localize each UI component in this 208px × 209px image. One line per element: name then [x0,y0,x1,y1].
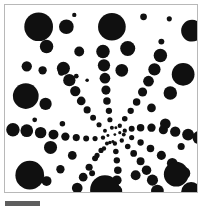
dot-marker [167,16,172,21]
scale-bar [5,201,40,206]
dot-marker [130,150,137,157]
dot-marker [115,64,128,77]
dot-marker [148,63,160,75]
dot-marker [140,14,147,21]
dot-marker [103,129,107,133]
dot-marker [98,13,126,41]
dot-marker [157,151,166,160]
dot-marker [147,104,156,113]
dot-marker [84,106,91,113]
dot-marker [113,133,116,136]
dot-marker [79,173,88,182]
dot-marker [129,135,134,140]
micrograph-panel[interactable] [4,4,198,193]
dot-marker [39,98,51,110]
dot-marker [107,117,112,122]
dot-marker [74,47,84,57]
dot-marker [101,86,110,95]
dot-marker [102,146,106,150]
dot-marker [122,133,126,137]
dot-marker [94,153,99,158]
dot-marker [83,136,89,142]
dot-marker [72,13,76,17]
dot-marker [61,132,69,140]
dot-marker [98,59,110,71]
dot-marker [142,165,152,174]
dot-marker [164,162,189,187]
dot-marker [147,124,155,132]
dot-marker [137,139,143,145]
dot-marker [118,124,122,128]
dot-marker [68,151,77,160]
dot-marker [160,118,171,129]
dot-marker [131,170,141,180]
dot-marker [63,74,75,86]
dot-marker [101,135,105,139]
dot-marker [114,126,117,129]
dot-marker [114,166,122,174]
dot-marker [86,164,93,171]
dot-marker [108,141,112,145]
dot-marker [125,144,131,150]
dot-marker [123,128,127,132]
dot-marker [110,126,114,130]
dot-marker [89,170,95,176]
dot-marker [114,157,120,163]
dot-marker [154,49,167,62]
dot-marker [120,138,124,142]
dot-marker [32,117,37,122]
dot-marker [143,76,154,87]
dot-marker [58,69,65,76]
dot-marker [96,122,101,127]
dot-marker [74,74,79,79]
dot-marker [129,126,135,132]
dot-marker [137,157,145,165]
dot-marker [103,97,111,105]
dot-marker [106,108,112,114]
dot-marker [56,165,64,173]
scalebar-group [5,200,65,208]
dot-marker [100,73,111,84]
dot-marker [92,136,97,141]
dot-marker [85,78,89,82]
dot-marker [122,116,128,122]
dot-marker [35,127,46,138]
dot-marker [164,86,177,99]
dot-marker [106,134,109,137]
dot-marker [73,134,80,141]
spiral-dot-plot [5,5,197,192]
dot-marker [113,149,119,155]
dot-marker [113,141,117,145]
dot-marker [182,129,194,141]
dot-marker [158,39,164,45]
dot-marker [172,63,195,86]
dot-marker [49,130,59,140]
dot-marker [70,86,80,96]
dot-marker [133,98,141,106]
dot-marker [137,124,145,132]
dot-marker [59,19,74,34]
dot-marker [178,143,185,150]
figure-root [0,0,208,209]
dot-marker [147,145,155,153]
dot-marker [170,127,180,137]
dot-marker [120,41,135,56]
dot-marker [20,124,33,137]
dot-marker [24,12,53,41]
dot-marker [22,61,32,71]
dot-marker [60,121,66,127]
dot-marker [138,88,147,97]
dot-marker [77,97,86,106]
dot-marker [13,83,39,109]
dot-marker [96,45,109,58]
dot-marker [147,175,158,186]
dot-marker [40,40,53,53]
dot-marker [38,66,46,74]
dot-marker [90,115,96,121]
dot-marker [118,131,121,134]
dot-marker [6,123,19,136]
dot-marker [15,161,44,190]
dot-marker [44,141,57,154]
dot-marker [128,108,134,114]
